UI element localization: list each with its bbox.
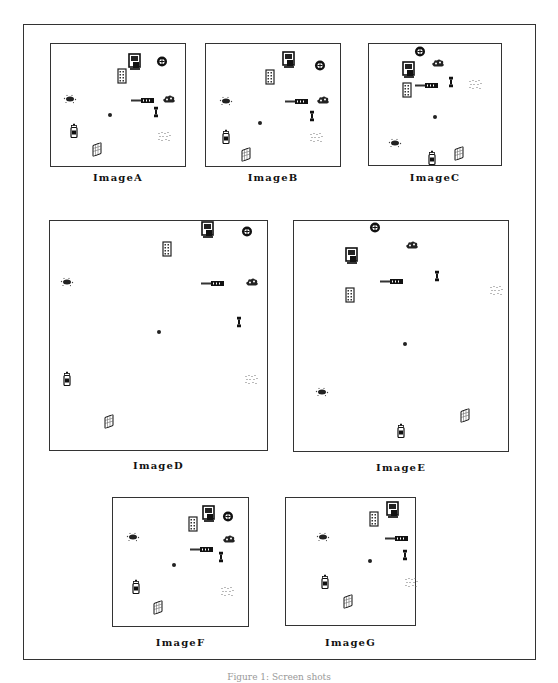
- bottle-icon: [321, 575, 329, 594]
- panel-image-e: [293, 220, 509, 452]
- panel-icon: [104, 413, 114, 432]
- dot-icon: [433, 105, 438, 124]
- pipe-icon: [415, 73, 439, 92]
- figure-caption: Figure 1: Screen shots: [0, 672, 558, 682]
- panel-icon: [454, 146, 464, 165]
- splat-icon: [63, 88, 77, 107]
- key-icon: [219, 547, 224, 566]
- panel-image-f: [112, 497, 249, 627]
- panel-label-f: ImageF: [156, 637, 205, 648]
- building-icon: [188, 516, 198, 536]
- bottle-icon: [428, 151, 436, 170]
- dots-icon: [490, 281, 504, 300]
- splat-icon: [388, 133, 402, 152]
- pipe-icon: [190, 537, 214, 556]
- panel-image-g: [285, 497, 416, 626]
- dot-icon: [257, 110, 262, 129]
- panel-label-b: ImageB: [248, 172, 299, 183]
- pipe-icon: [285, 89, 309, 108]
- dot-icon: [367, 548, 372, 567]
- bottle-icon: [70, 124, 78, 143]
- splat-icon: [60, 271, 74, 290]
- key-icon: [402, 546, 407, 565]
- panel-icon: [92, 142, 102, 161]
- dot-icon: [403, 331, 408, 350]
- cloud-icon: [222, 528, 236, 547]
- panel-icon: [153, 600, 163, 619]
- dots-icon: [405, 572, 419, 591]
- monitor-icon: [402, 61, 416, 83]
- monitor-icon: [282, 51, 296, 73]
- building-icon: [369, 511, 379, 531]
- pipe-icon: [201, 271, 225, 290]
- key-icon: [236, 312, 241, 331]
- wheel-icon: [241, 223, 253, 242]
- wheel-icon: [414, 43, 426, 62]
- bottle-icon: [397, 423, 405, 442]
- panel-label-d: ImageD: [133, 460, 184, 471]
- splat-icon: [219, 91, 233, 110]
- cloud-icon: [245, 271, 259, 290]
- wheel-icon: [314, 56, 326, 75]
- panel-image-d: [49, 220, 268, 451]
- key-icon: [153, 103, 158, 122]
- cloud-icon: [316, 89, 330, 108]
- building-icon: [402, 82, 412, 102]
- splat-icon: [126, 527, 140, 546]
- building-icon: [117, 68, 127, 88]
- dot-icon: [171, 553, 176, 572]
- panel-label-g: ImageG: [325, 637, 376, 648]
- monitor-icon: [345, 247, 359, 269]
- building-icon: [345, 287, 355, 307]
- bottle-icon: [63, 372, 71, 391]
- panel-icon: [241, 147, 251, 166]
- splat-icon: [315, 382, 329, 401]
- dots-icon: [245, 370, 259, 389]
- key-icon: [309, 106, 314, 125]
- monitor-icon: [202, 505, 216, 527]
- dot-icon: [156, 319, 161, 338]
- bottle-icon: [222, 130, 230, 149]
- dots-icon: [469, 74, 483, 93]
- dots-icon: [221, 582, 235, 601]
- key-icon: [448, 72, 453, 91]
- cloud-icon: [162, 88, 176, 107]
- bottle-icon: [132, 579, 140, 598]
- key-icon: [435, 267, 440, 286]
- panel-image-c: [368, 43, 502, 166]
- cloud-icon: [431, 53, 445, 72]
- panel-icon: [460, 407, 470, 426]
- panel-icon: [343, 594, 353, 613]
- pipe-icon: [385, 527, 409, 546]
- panel-image-b: [205, 43, 341, 167]
- wheel-icon: [222, 508, 234, 527]
- building-icon: [162, 241, 172, 261]
- pipe-icon: [131, 88, 155, 107]
- cloud-icon: [405, 235, 419, 254]
- monitor-icon: [128, 53, 142, 75]
- monitor-icon: [201, 221, 215, 243]
- monitor-icon: [386, 501, 400, 523]
- panel-label-c: ImageC: [410, 172, 460, 183]
- panel-image-a: [50, 43, 186, 167]
- dots-icon: [158, 126, 172, 145]
- wheel-icon: [156, 53, 168, 72]
- dots-icon: [310, 127, 324, 146]
- building-icon: [265, 69, 275, 89]
- wheel-icon: [369, 218, 381, 237]
- panel-label-a: ImageA: [93, 172, 143, 183]
- splat-icon: [316, 527, 330, 546]
- pipe-icon: [380, 269, 404, 288]
- dot-icon: [107, 103, 112, 122]
- panel-label-e: ImageE: [376, 462, 426, 473]
